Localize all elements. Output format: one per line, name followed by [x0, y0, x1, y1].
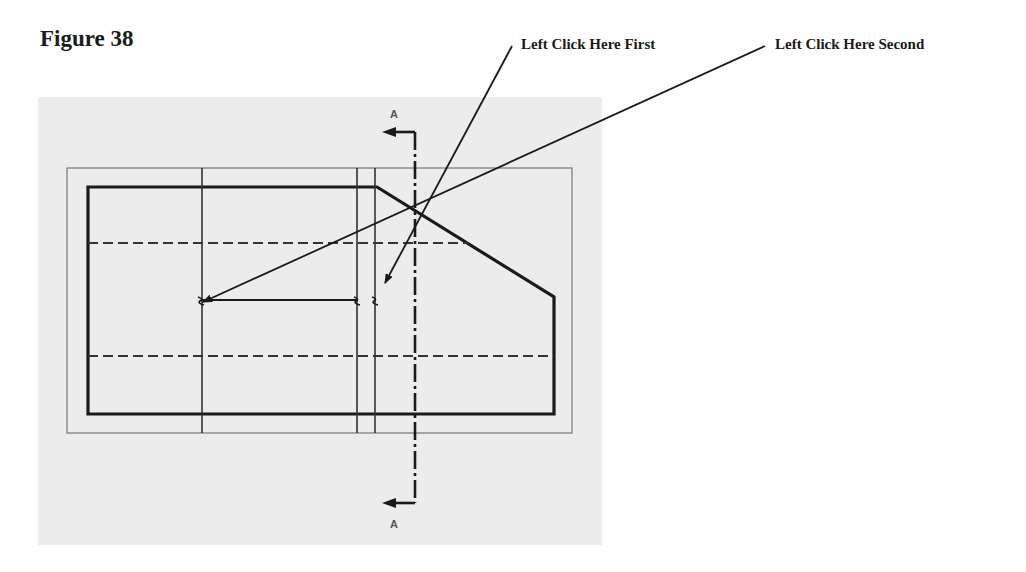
- section-label-top: A: [390, 108, 398, 120]
- section-arrow-bottom-icon: [382, 498, 396, 508]
- figure-page: Figure 38 Left Click Here First Left Cli…: [0, 0, 1026, 572]
- break-mark-right: [372, 297, 378, 305]
- section-label-bottom: A: [390, 518, 398, 530]
- callout-second-arrow: [203, 46, 765, 302]
- break-mark-middle: [354, 297, 360, 305]
- callout-first-arrow: [385, 46, 512, 283]
- cad-drawing: A A: [0, 0, 1026, 572]
- section-arrow-top-icon: [382, 127, 396, 137]
